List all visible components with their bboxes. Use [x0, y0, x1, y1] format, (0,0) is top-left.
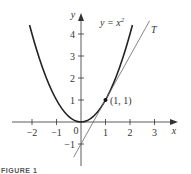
- figure-caption: FIGURE 1: [1, 167, 37, 174]
- y-axis-arrow-icon: [78, 13, 84, 21]
- x-axis-label: x: [171, 125, 177, 136]
- tick-x-m2: −2: [27, 127, 38, 138]
- tangent-line: [74, 21, 150, 157]
- curve-label-main: y = x: [99, 17, 121, 28]
- tick-y-2: 2: [70, 73, 75, 84]
- curve-label-exponent: 2: [121, 16, 125, 24]
- point-label: (1, 1): [110, 95, 132, 107]
- tangent-point: [104, 98, 108, 102]
- tick-y-3: 3: [70, 51, 75, 62]
- tick-y-4: 4: [70, 29, 75, 40]
- tick-x-3: 3: [152, 127, 157, 138]
- tick-origin: 0: [74, 125, 79, 136]
- tick-y-m1: −1: [64, 139, 75, 150]
- tick-x-2: 2: [128, 127, 133, 138]
- tick-y-1: 1: [70, 95, 75, 106]
- tick-x-1: 1: [103, 127, 108, 138]
- tangent-label: T: [151, 24, 158, 35]
- figure-plot: −2 −1 0 1 2 3 x 4 3 2 1 −1 y (1, 1) y = …: [0, 0, 191, 174]
- curve-label: y = x2: [99, 16, 125, 28]
- tick-x-m1: −1: [51, 127, 62, 138]
- y-axis-label: y: [70, 9, 76, 20]
